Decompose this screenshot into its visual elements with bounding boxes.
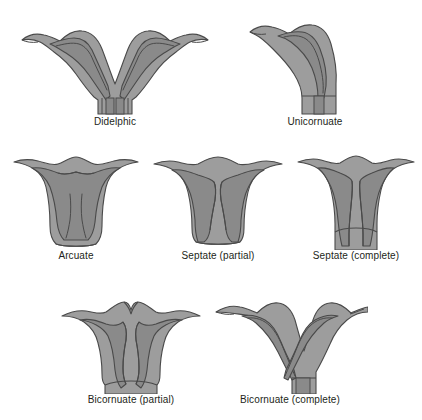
arcuate-illustration [8,146,144,250]
diagram-arcuate: Arcuate [8,146,144,270]
bicornuate-partial-myometrium [62,302,200,394]
label-septate-complete: Septate (complete) [292,250,420,261]
didelphic-myometrium [22,31,208,114]
label-unicornuate: Unicornuate [236,116,394,127]
diagram-bicornuate-complete: Bicornuate (complete) [212,290,368,416]
unicornuate-illustration [236,8,394,116]
didelphic-illustration [14,8,216,116]
label-arcuate: Arcuate [8,250,144,261]
septate-complete-myometrium [298,156,414,250]
diagram-septate-partial: Septate (partial) [148,146,288,270]
diagram-septate-complete: Septate (complete) [292,146,420,270]
label-bicornuate-complete: Bicornuate (complete) [212,394,368,405]
septate-complete-illustration [292,146,420,250]
diagram-didelphic: Didelphic [14,8,216,136]
uterine-anomalies-figure: Didelphic Unicornuate [0,0,422,420]
diagram-unicornuate: Unicornuate [236,8,394,136]
label-septate-partial: Septate (partial) [148,250,288,261]
label-didelphic: Didelphic [14,116,216,127]
diagram-bicornuate-partial: Bicornuate (partial) [58,290,204,416]
bicornuate-complete-illustration [212,290,368,394]
label-bicornuate-partial: Bicornuate (partial) [58,394,204,405]
arcuate-cavity [32,168,120,240]
bicornuate-partial-illustration [58,290,204,394]
septate-partial-illustration [148,146,288,250]
